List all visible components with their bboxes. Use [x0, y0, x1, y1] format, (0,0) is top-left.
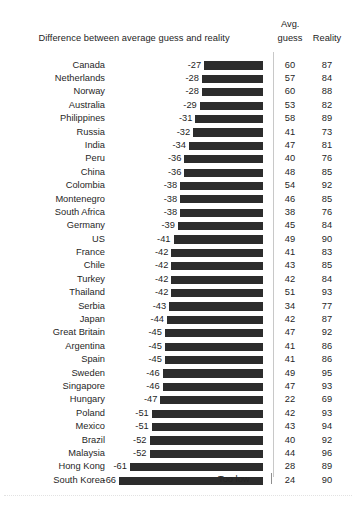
reality-value: 90 — [308, 475, 346, 485]
reality-value: 85 — [308, 260, 346, 270]
difference-value-label: -39 — [161, 220, 174, 230]
bar-track — [108, 59, 263, 72]
country-label: France — [0, 247, 105, 257]
difference-value-label: -38 — [164, 180, 177, 190]
chart-row: Singapore-464793 — [0, 380, 356, 393]
bar — [184, 155, 263, 163]
reality-value: 88 — [308, 86, 346, 96]
difference-value-label: -61 — [113, 461, 126, 471]
bar — [178, 222, 263, 230]
chart-row: Canada-276087 — [0, 59, 356, 72]
chart-row: US-414990 — [0, 233, 356, 246]
difference-value-label: -38 — [164, 207, 177, 217]
bar — [171, 262, 263, 270]
reality-value: 87 — [308, 60, 346, 70]
difference-value-label: -38 — [164, 194, 177, 204]
bar — [180, 182, 263, 190]
avg-guess-value: 49 — [276, 368, 304, 378]
reality-value: 84 — [308, 73, 346, 83]
chart-row: Chile-424385 — [0, 260, 356, 273]
avg-guess-value: 40 — [276, 153, 304, 163]
country-label: Chile — [0, 260, 105, 270]
reality-value: 94 — [308, 421, 346, 431]
reality-value: 95 — [308, 368, 346, 378]
bar-track — [108, 166, 263, 179]
country-label: US — [0, 234, 105, 244]
chart-rows: Canada-276087Netherlands-285784Norway-28… — [0, 59, 356, 488]
reality-value: 93 — [308, 408, 346, 418]
reality-value: 69 — [308, 394, 346, 404]
chart-row: Japan-444287 — [0, 313, 356, 326]
reality-value: 82 — [308, 100, 346, 110]
reality-value: 85 — [308, 167, 346, 177]
avg-guess-value: 48 — [276, 167, 304, 177]
reality-value: 84 — [308, 274, 346, 284]
difference-value-label: -27 — [188, 60, 201, 70]
chart-row: China-364885 — [0, 166, 356, 179]
reality-value: 83 — [308, 247, 346, 257]
too-low-annotation: Too low — [218, 474, 250, 484]
avg-guess-value: 22 — [276, 394, 304, 404]
difference-value-label: -51 — [135, 421, 148, 431]
avg-guess-value: 54 — [276, 180, 304, 190]
avg-guess-value: 60 — [276, 86, 304, 96]
country-label: Philippines — [0, 113, 105, 123]
country-label: Germany — [0, 220, 105, 230]
reality-value: 85 — [308, 194, 346, 204]
country-label: Thailand — [0, 287, 105, 297]
avg-guess-value: 45 — [276, 220, 304, 230]
avg-guess-value: 42 — [276, 274, 304, 284]
country-label: Sweden — [0, 368, 105, 378]
avg-guess-value: 47 — [276, 381, 304, 391]
country-label: Mexico — [0, 421, 105, 431]
difference-value-label: -42 — [155, 287, 168, 297]
bar-track — [108, 180, 263, 193]
bar-track — [108, 233, 263, 246]
chart-row: Poland-514293 — [0, 407, 356, 420]
avg-guess-value: 49 — [276, 234, 304, 244]
bar-track — [108, 367, 263, 380]
chart-row: Great Britain-454792 — [0, 327, 356, 340]
difference-value-label: -51 — [135, 408, 148, 418]
reality-value: 89 — [308, 461, 346, 471]
bar-track — [108, 287, 263, 300]
country-label: China — [0, 167, 105, 177]
difference-value-label: -46 — [146, 381, 159, 391]
country-label: South Africa — [0, 207, 105, 217]
chart-row: India-344781 — [0, 139, 356, 152]
bar — [204, 61, 263, 69]
country-label: Hong Kong — [0, 461, 105, 471]
chart-row: Australia-295382 — [0, 99, 356, 112]
bar-track — [108, 273, 263, 286]
reality-value: 92 — [308, 327, 346, 337]
chart-row: Spain-454186 — [0, 354, 356, 367]
avg-guess-value: 38 — [276, 207, 304, 217]
chart-row: Brazil-524092 — [0, 434, 356, 447]
bar-track — [108, 220, 263, 233]
difference-value-label: -45 — [148, 327, 161, 337]
reality-value: 93 — [308, 287, 346, 297]
avg-guess-value: 47 — [276, 140, 304, 150]
chart-row: Montenegro-384685 — [0, 193, 356, 206]
avg-guess-value: 40 — [276, 435, 304, 445]
bar-track — [108, 340, 263, 353]
bar-track — [108, 300, 263, 313]
reality-value: 96 — [308, 448, 346, 458]
bar-track — [108, 246, 263, 259]
avg-guess-value: 41 — [276, 341, 304, 351]
country-label: Spain — [0, 354, 105, 364]
country-label: Singapore — [0, 381, 105, 391]
bar — [195, 115, 263, 123]
too-low-tick-icon — [271, 473, 272, 484]
avg-guess-value: 57 — [276, 73, 304, 83]
chart-row: Netherlands-285784 — [0, 72, 356, 85]
chart-header: Difference between average guess and rea… — [0, 0, 356, 56]
avg-guess-value: 60 — [276, 60, 304, 70]
avg-guess-value: 47 — [276, 327, 304, 337]
bar-track — [108, 434, 263, 447]
avg-guess-value: 41 — [276, 127, 304, 137]
bar — [169, 302, 263, 310]
chart-container: Difference between average guess and rea… — [0, 0, 356, 508]
bar — [160, 396, 263, 404]
bar — [180, 209, 263, 217]
